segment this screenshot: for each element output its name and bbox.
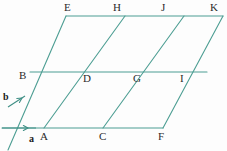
vector-lattice-diagram: ACFBDGIEHJK ab	[0, 0, 227, 151]
vector-label-a: a	[29, 134, 34, 144]
vertex-label-C: C	[99, 131, 106, 142]
vertex-label-I: I	[180, 73, 184, 84]
vertex-label-B: B	[19, 70, 26, 81]
vertex-label-G: G	[133, 73, 141, 84]
vertex-label-A: A	[40, 131, 48, 142]
vertex-label-H: H	[113, 2, 121, 13]
vertex-label-J: J	[161, 2, 165, 13]
vertex-label-F: F	[158, 131, 164, 142]
grid-line-diagonal-0	[8, 16, 66, 150]
vertex-label-K: K	[210, 2, 218, 13]
vector-b-shaft	[8, 96, 25, 107]
vertex-label-D: D	[83, 73, 91, 84]
lattice-drawing-canvas	[0, 0, 227, 151]
vertex-label-E: E	[64, 2, 71, 13]
vector-label-b: b	[3, 92, 9, 102]
